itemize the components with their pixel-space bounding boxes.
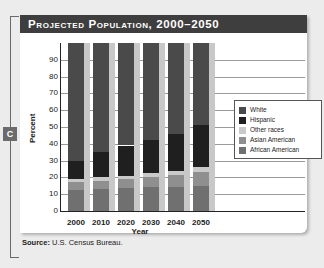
legend-item: White bbox=[239, 106, 267, 116]
bar-segment bbox=[68, 179, 84, 182]
y-axis-label: Percent bbox=[28, 114, 37, 143]
bar-segment bbox=[193, 125, 209, 167]
bar-segment bbox=[143, 173, 159, 177]
bar-segment bbox=[193, 167, 209, 172]
chart-panel: Projected Population, 2000–2050 Percent … bbox=[20, 15, 307, 233]
legend-label: Hispanic bbox=[250, 116, 275, 123]
bar-segment bbox=[168, 43, 184, 134]
bar-shadow bbox=[109, 43, 115, 211]
y-tick-label: 30 bbox=[42, 156, 58, 165]
y-tick-label: 80 bbox=[42, 72, 58, 81]
bar-segment bbox=[143, 43, 159, 140]
source-note: Source: U.S. Census Bureau. bbox=[22, 238, 122, 247]
bar-segment bbox=[68, 190, 84, 211]
legend-item: Asian American bbox=[239, 136, 295, 146]
bar-2010 bbox=[93, 43, 109, 211]
bar-segment bbox=[143, 140, 159, 174]
bar-segment bbox=[93, 181, 109, 189]
bar-segment bbox=[118, 146, 134, 176]
bar-segment bbox=[93, 177, 109, 180]
y-axis bbox=[60, 43, 61, 212]
y-tick-label: 90 bbox=[42, 55, 58, 64]
y-tick-label: 70 bbox=[42, 88, 58, 97]
y-tick-label: 20 bbox=[42, 172, 58, 181]
legend-item: African American bbox=[239, 146, 299, 156]
bar-2050 bbox=[193, 43, 209, 211]
y-tick-label: 10 bbox=[42, 189, 58, 198]
y-tick-label: 60 bbox=[42, 105, 58, 114]
bar-shadow bbox=[209, 43, 215, 211]
source-label: Source: bbox=[22, 238, 50, 247]
x-axis bbox=[60, 211, 305, 213]
x-tick-label: 2010 bbox=[89, 218, 113, 227]
legend-swatch-icon bbox=[239, 117, 246, 124]
bar-segment bbox=[118, 43, 134, 145]
bar-segment bbox=[118, 179, 134, 188]
bar-segment bbox=[168, 171, 184, 175]
legend-item: Hispanic bbox=[239, 116, 275, 126]
legend-swatch-icon bbox=[239, 127, 246, 134]
bar-segment bbox=[93, 43, 109, 152]
legend-label: White bbox=[250, 106, 267, 113]
y-tick-label: 50 bbox=[42, 122, 58, 131]
bar-2040 bbox=[168, 43, 184, 211]
y-tick-label: 40 bbox=[42, 139, 58, 148]
legend: WhiteHispanicOther racesAsian AmericanAf… bbox=[234, 100, 322, 159]
legend-item: Other races bbox=[239, 126, 284, 136]
chart-title: Projected Population, 2000–2050 bbox=[20, 15, 307, 33]
x-tick-label: 2040 bbox=[164, 218, 188, 227]
bar-segment bbox=[68, 161, 84, 179]
bar-segment bbox=[93, 152, 109, 177]
legend-label: Other races bbox=[250, 126, 284, 133]
bar-segment bbox=[143, 187, 159, 211]
legend-swatch-icon bbox=[239, 137, 246, 144]
bar-segment bbox=[93, 189, 109, 211]
bar-segment bbox=[168, 134, 184, 171]
legend-swatch-icon bbox=[239, 147, 246, 154]
x-axis-label: Year bbox=[120, 227, 160, 236]
x-tick-label: 2020 bbox=[114, 218, 138, 227]
bar-segment bbox=[68, 43, 84, 161]
bar-2030 bbox=[143, 43, 159, 211]
bar-segment bbox=[168, 175, 184, 187]
bar-segment bbox=[168, 187, 184, 211]
x-tick-label: 2050 bbox=[189, 218, 213, 227]
bar-segment bbox=[193, 186, 209, 211]
bar-segment bbox=[193, 43, 209, 125]
x-tick-label: 2030 bbox=[139, 218, 163, 227]
bar-2020 bbox=[118, 43, 134, 211]
legend-label: Asian American bbox=[250, 136, 295, 143]
bar-segment bbox=[143, 177, 159, 187]
bar-shadow bbox=[134, 43, 140, 211]
bar-segment bbox=[68, 182, 84, 190]
legend-swatch-icon bbox=[239, 107, 246, 114]
x-tick-label: 2000 bbox=[64, 218, 88, 227]
bar-segment bbox=[193, 172, 209, 185]
bar-shadow bbox=[184, 43, 190, 211]
bar-segment bbox=[118, 188, 134, 211]
bar-shadow bbox=[84, 43, 90, 211]
legend-label: African American bbox=[250, 146, 299, 153]
y-tick-label: 0 bbox=[42, 206, 58, 215]
bar-shadow bbox=[159, 43, 165, 211]
bar-2000 bbox=[68, 43, 84, 211]
section-badge: C bbox=[3, 127, 17, 141]
bar-segment bbox=[118, 176, 134, 179]
source-text: U.S. Census Bureau. bbox=[50, 238, 123, 247]
